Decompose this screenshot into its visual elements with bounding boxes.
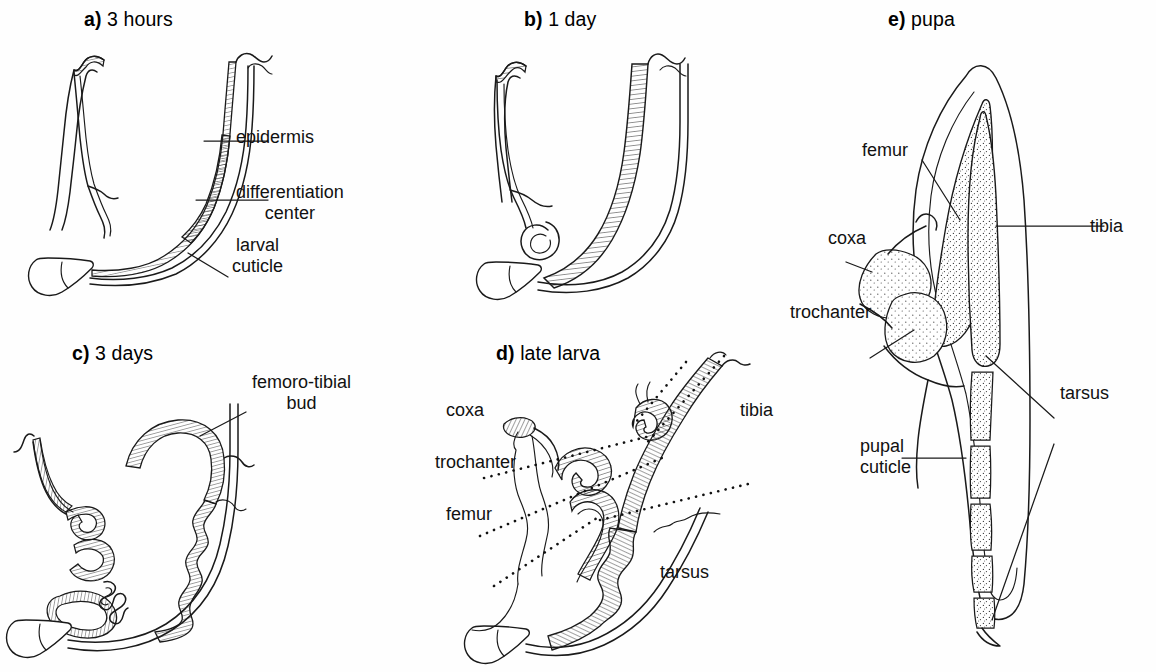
tibia-segment-d [618,358,722,532]
dotted-leader-femur2-d [600,484,748,520]
label-larval-cuticle-line1: larval [236,235,279,255]
cuticle-wave-d [654,513,720,532]
joint-fold-upper-tail2-d [647,382,650,402]
coxa-neck-d [534,428,559,470]
label-d-tarsus: tarsus [660,562,709,583]
label-larval-cuticle-line2: cuticle [232,256,283,276]
figure-root: a) 3 hours [0,0,1156,672]
panel-b-title: b) 1 day [524,10,596,30]
spiral-coil-inner-b [531,234,551,253]
body-outline-left-d [472,584,518,631]
label-femoro-tibial-bud-line1: femoro-tibial [252,372,351,392]
cuticle-proximal-2-d [532,436,549,576]
panel-a-title: a) 3 hours [84,10,173,30]
label-differentiation-center-line1: differentiation [236,182,344,202]
distal-hook-a [236,53,272,62]
distal-hook-2-b [660,66,686,76]
joint-fold-upper-tail-d [636,384,640,404]
tarsus-seg-4-e [972,556,993,592]
panel-b-title-text: 1 day [543,8,597,30]
label-d-coxa: coxa [404,400,484,421]
tarsal-claw-e [977,628,1000,646]
epidermis-left-b [496,62,526,82]
label-epidermis: epidermis [236,127,314,148]
disc-wall-left-a [74,73,105,238]
label-d-tibia: tibia [740,400,773,421]
tibia-hook-d [722,360,750,366]
body-wall-descend-e [917,380,929,488]
distal-hook-2-a [248,64,272,74]
panel-e-marker: e) [888,8,906,30]
leader-larvalcuticle-a [188,253,228,277]
trochanter-segment-e [885,293,947,362]
fold-upper-left-c [66,507,105,540]
tarsus-seg-2-e [970,446,991,498]
panel-b-drawing [470,40,790,305]
larval-cuticle-outer-c [14,434,34,452]
body-notch-e [916,214,937,230]
disc-wall-left-inner-a [80,76,111,236]
panel-e-title: e) pupa [888,10,955,30]
differentiation-center-a [182,135,230,243]
larval-cuticle-outer-a [50,56,104,230]
larval-cuticle-inner-a [62,70,97,230]
leader-femorotibial-c [200,412,246,436]
label-differentiation-center-line2: center [265,203,315,223]
claw-a [29,258,94,295]
label-femoro-tibial-bud-line2: bud [287,393,317,413]
epidermis-thick-b [544,64,648,288]
leader-tarsus-upper-e [986,356,1054,418]
epidermis-left-a [74,56,104,75]
label-e-pupal-cuticle-line2: cuticle [860,457,911,477]
distal-wall-c [155,500,216,642]
panel-c-title: c) 3 days [72,344,153,364]
epidermis-right-a [92,62,236,276]
label-differentiation-center: differentiation center [236,182,344,223]
fold-mid-c [70,539,114,580]
panel-b-marker: b) [524,8,543,30]
panel-c-marker: c) [72,342,90,364]
tarsus-seg-5-e [974,598,995,628]
bud-hook-c [224,456,254,467]
label-e-pupal-cuticle-line1: pupal [860,436,904,456]
distal-hook-b [648,54,685,64]
claw-d [465,626,530,663]
label-e-pupal-cuticle: pupal cuticle [860,436,911,477]
claw-b [477,262,542,299]
label-larval-cuticle: larval cuticle [232,235,283,276]
label-e-coxa: coxa [828,228,866,249]
label-e-tarsus: tarsus [1060,383,1109,404]
trochanter-segment-d [555,448,611,495]
tarsus-seg-3-e [970,504,991,550]
label-d-trochanter: trochanter [388,452,516,473]
tarsus-segment-d [548,528,636,650]
tarsus-seg-1-e [970,372,993,440]
label-e-tibia: tibia [1090,216,1123,237]
panel-c-drawing [0,370,430,670]
panel-e-title-text: pupa [906,8,955,30]
ventral-cuticle-inner-b [538,64,688,293]
panel-a-drawing [0,40,440,305]
spiral-coil-b [521,222,559,260]
disc-wall-left-b [497,80,526,228]
panel-a-marker: a) [84,8,102,30]
panel-a-title-text: 3 hours [102,8,173,30]
label-e-femur: femur [862,140,908,161]
coxa-segment-d [503,418,535,438]
bud-hook-2-c [216,500,246,511]
label-d-femur: femur [404,504,492,525]
panel-e-drawing [820,40,1156,660]
claw-c [7,620,72,657]
label-e-trochanter: trochanter [790,302,871,323]
panel-c-title-text: 3 days [90,342,154,364]
label-femoro-tibial-bud: femoro-tibial bud [252,372,351,413]
femoro-tibial-bud-c [126,420,225,504]
